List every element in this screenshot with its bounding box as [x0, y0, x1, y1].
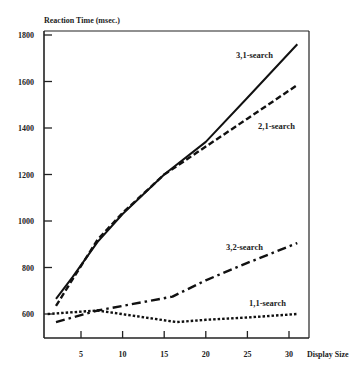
y-tick-label: 1800 — [18, 31, 34, 40]
y-ticks: 60080010001200140016001800 — [18, 31, 52, 319]
x-tick-label: 15 — [160, 350, 168, 359]
y-axis-title: Reaction Time (msec.) — [44, 16, 120, 25]
series-label-3-1: 3,1-search — [236, 50, 273, 60]
series-label-2-1: 2,1-search — [258, 121, 295, 131]
y-tick-label: 1600 — [18, 78, 34, 87]
y-tick-label: 1200 — [18, 171, 34, 180]
series-line-3-1-search — [56, 44, 297, 299]
series-label-1-1: 1,1-search — [249, 298, 286, 308]
y-tick-label: 800 — [22, 264, 34, 273]
x-ticks: 51015202530 — [79, 331, 293, 359]
plot-frame — [44, 31, 309, 338]
reaction-time-chart: 60080010001200140016001800 51015202530 R… — [0, 0, 362, 373]
x-axis-title: Display Size — [307, 350, 349, 359]
x-tick-label: 20 — [202, 350, 210, 359]
series-line-2-1-search — [56, 85, 297, 306]
y-tick-label: 1400 — [18, 124, 34, 133]
series-line-3-2-search — [56, 243, 297, 322]
y-tick-label: 600 — [22, 310, 34, 319]
y-tick-label: 1000 — [18, 217, 34, 226]
x-tick-label: 5 — [79, 350, 83, 359]
x-tick-label: 25 — [243, 350, 251, 359]
x-tick-label: 30 — [285, 350, 293, 359]
series-line-1-1-search — [48, 311, 298, 323]
series-label-3-2: 3,2-search — [226, 242, 263, 252]
series-lines — [48, 44, 298, 322]
x-tick-label: 10 — [119, 350, 127, 359]
